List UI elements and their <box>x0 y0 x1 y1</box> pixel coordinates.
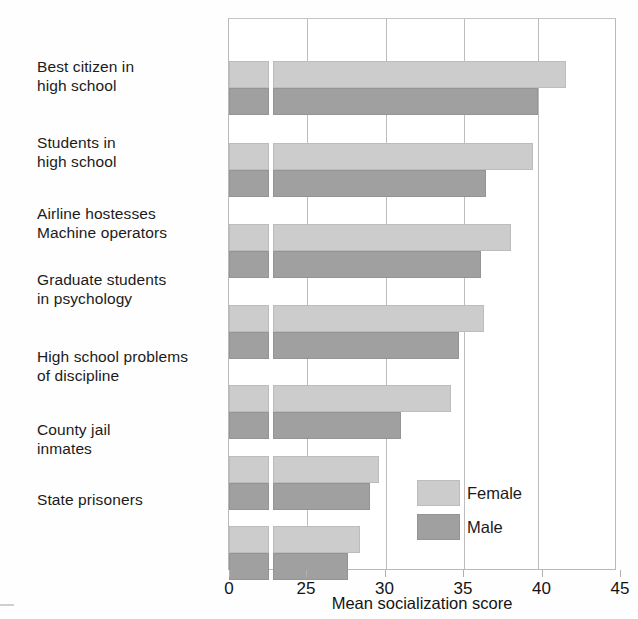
bar-segment-main <box>273 553 348 580</box>
bar-female-4 <box>229 385 451 412</box>
x-tick-mark-30 <box>385 570 386 577</box>
bar-segment-main <box>273 61 566 88</box>
bar-segment-left <box>229 224 269 251</box>
bar-segment-main <box>273 224 511 251</box>
bar-male-1 <box>229 170 486 197</box>
bar-segment-main <box>273 456 379 483</box>
legend-swatch-male-icon <box>417 514 460 540</box>
bar-segment-left <box>229 385 269 412</box>
bar-female-1 <box>229 143 533 170</box>
gridline-40 <box>538 19 539 569</box>
bar-female-5 <box>229 456 379 483</box>
bar-segment-main <box>273 483 370 510</box>
category-label-county-jail: County jail inmates <box>37 420 110 458</box>
bar-female-0 <box>229 61 566 88</box>
x-tick-mark-25 <box>306 570 307 577</box>
bar-male-4 <box>229 412 401 439</box>
x-tick-mark-40 <box>542 570 543 577</box>
bar-female-2 <box>229 224 511 251</box>
legend-row-male: Male <box>417 510 522 544</box>
bar-segment-main <box>273 88 538 115</box>
bar-male-2 <box>229 251 481 278</box>
bar-segment-left <box>229 526 269 553</box>
x-tick-mark-0 <box>229 570 230 577</box>
category-label-graduate-students: Graduate students in psychology <box>37 270 166 308</box>
bar-segment-left <box>229 412 269 439</box>
bar-male-0 <box>229 88 538 115</box>
bar-segment-main <box>273 332 459 359</box>
bar-segment-left <box>229 456 269 483</box>
scan-artifact-mark <box>0 604 14 606</box>
bar-segment-left <box>229 61 269 88</box>
bar-segment-main <box>273 412 401 439</box>
bar-segment-left <box>229 88 269 115</box>
x-axis-title: Mean socialization score <box>228 594 616 613</box>
bar-male-3 <box>229 332 459 359</box>
category-label-hostesses-operators: Airline hostesses Machine operators <box>37 204 167 242</box>
legend: Female Male <box>417 476 522 544</box>
legend-label-female: Female <box>467 484 522 503</box>
bar-segment-left <box>229 332 269 359</box>
bar-segment-main <box>273 170 486 197</box>
x-tick-mark-35 <box>463 570 464 577</box>
bar-segment-left <box>229 305 269 332</box>
bar-segment-main <box>273 251 481 278</box>
bar-segment-main <box>273 305 484 332</box>
bar-female-6 <box>229 526 360 553</box>
bar-segment-main <box>273 143 533 170</box>
socialization-score-bar-chart: Best citizen in high school Students in … <box>0 0 638 619</box>
bar-segment-left <box>229 170 269 197</box>
bar-segment-main <box>273 526 360 553</box>
legend-swatch-female-icon <box>417 480 460 506</box>
bar-male-6 <box>229 553 348 580</box>
x-tick-mark-45 <box>620 570 621 577</box>
category-label-state-prisoners: State prisoners <box>37 490 143 509</box>
category-label-best-citizen: Best citizen in high school <box>37 57 134 95</box>
bar-segment-left <box>229 483 269 510</box>
bar-female-3 <box>229 305 484 332</box>
bar-segment-left <box>229 143 269 170</box>
bar-segment-main <box>273 385 451 412</box>
bar-segment-left <box>229 251 269 278</box>
legend-row-female: Female <box>417 476 522 510</box>
legend-label-male: Male <box>467 518 503 537</box>
bar-male-5 <box>229 483 370 510</box>
bar-segment-left <box>229 553 269 580</box>
category-label-students: Students in high school <box>37 133 117 171</box>
category-label-hs-problems: High school problems of discipline <box>37 347 188 385</box>
